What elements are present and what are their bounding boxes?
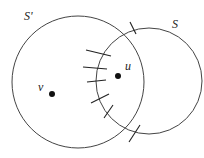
point-u	[115, 73, 121, 79]
label-s-prime: S'	[24, 9, 33, 23]
circle-s	[96, 28, 202, 134]
point-v	[49, 91, 55, 97]
label-s: S	[172, 17, 178, 31]
label-u: u	[125, 59, 131, 73]
venn-diagram: S' S u v	[0, 0, 204, 158]
label-v: v	[38, 80, 44, 94]
tick-marks	[83, 22, 140, 142]
